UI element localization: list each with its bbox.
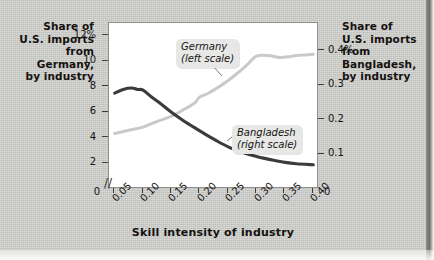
right-tick-label: 0.2 [328,113,344,124]
left-tick-label: 6 [62,105,96,116]
right-tick-label: 0.4% [328,44,353,55]
callout-bangladesh-line1: Bangladesh [237,127,297,139]
page-right-edge [426,0,434,260]
left-axis-origin-label: 0 [86,186,100,197]
chart-figure: Share ofU.S. importsfromGermany,by indus… [0,0,434,260]
left-tick-label: 10 [62,54,96,65]
x-axis-title: Skill intensity of industry [108,226,318,239]
right-tick-label: 0.3 [328,78,344,89]
axis-break-icon: // [104,176,112,190]
left-tick-label: 12% [62,29,96,40]
callout-bangladesh: Bangladesh (right scale) [232,125,302,154]
page-bottom-edge [0,250,434,260]
left-tick-mark [102,136,108,137]
left-tick-mark [102,34,108,35]
right-tick-mark [318,153,324,154]
callout-germany-line1: Germany [181,41,234,53]
left-tick-mark [102,60,108,61]
callout-bangladesh-line2: (right scale) [237,139,297,151]
left-tick-mark [102,85,108,86]
right-axis-origin-label: 0 [324,186,330,197]
callout-germany-line2: (left scale) [181,53,234,65]
right-tick-mark [318,118,324,119]
right-tick-mark [318,49,324,50]
left-tick-label: 8 [62,80,96,91]
right-tick-label: 0.1 [328,147,344,158]
right-tick-mark [318,84,324,85]
left-tick-label: 2 [62,156,96,167]
left-tick-mark [102,111,108,112]
callout-germany: Germany (left scale) [176,39,239,68]
left-tick-label: 4 [62,131,96,142]
right-axis-title: Share ofU.S. importsfromBangladesh,by in… [342,20,428,83]
left-tick-mark [102,162,108,163]
